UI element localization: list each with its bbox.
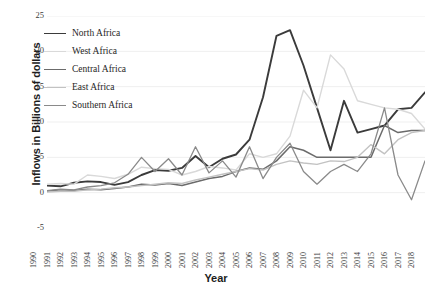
x-tick-label: 1999 — [152, 228, 160, 268]
x-axis-title: Year — [0, 272, 432, 284]
x-tick-label: 1996 — [111, 228, 119, 268]
x-tick-label: 2003 — [206, 228, 214, 268]
chart-figure: Inflows in Billions of dollars 252015105… — [0, 0, 432, 296]
legend-label: Central Africa — [72, 64, 126, 74]
x-tick-label: 2004 — [219, 228, 227, 268]
y-tick-label: 10 — [22, 117, 44, 126]
legend-item-central-africa[interactable]: Central Africa — [44, 60, 176, 78]
legend-item-north-africa[interactable]: North Africa — [44, 24, 176, 42]
x-tick-label: 1995 — [98, 228, 106, 268]
x-tick-label: 2014 — [354, 228, 362, 268]
legend-swatch-line-icon — [44, 87, 66, 88]
x-axis-tick-labels: 1990199119921993199419951996199719981999… — [47, 230, 425, 270]
x-tick-label: 2010 — [300, 228, 308, 268]
y-tick-label: 25 — [22, 11, 44, 20]
chart-legend: North AfricaWest AfricaCentral AfricaEas… — [44, 24, 176, 114]
x-tick-label: 2007 — [260, 228, 268, 268]
x-tick-label: 2006 — [246, 228, 254, 268]
x-tick-label: 1998 — [138, 228, 146, 268]
y-tick-label: 20 — [22, 46, 44, 55]
x-tick-label: 2016 — [381, 228, 389, 268]
x-tick-label: 1997 — [125, 228, 133, 268]
x-tick-label: 2000 — [165, 228, 173, 268]
legend-swatch-line-icon — [44, 33, 66, 34]
x-tick-label: 2009 — [287, 228, 295, 268]
x-tick-label: 2018 — [408, 228, 416, 268]
legend-label: West Africa — [72, 46, 117, 56]
x-tick-label: 2005 — [233, 228, 241, 268]
x-tick-label: 2012 — [327, 228, 335, 268]
x-tick-label: 2011 — [314, 228, 322, 268]
legend-label: East Africa — [72, 82, 114, 92]
x-tick-label: 2001 — [179, 228, 187, 268]
x-tick-label: 2002 — [192, 228, 200, 268]
legend-swatch-line-icon — [44, 51, 66, 52]
legend-swatch-line-icon — [44, 105, 66, 106]
x-tick-label: 2017 — [395, 228, 403, 268]
x-tick-label: 1993 — [71, 228, 79, 268]
y-tick-label: 15 — [22, 82, 44, 91]
legend-label: North Africa — [72, 28, 120, 38]
legend-item-west-africa[interactable]: West Africa — [44, 42, 176, 60]
x-tick-label: 1990 — [30, 228, 38, 268]
x-tick-label: 2008 — [273, 228, 281, 268]
legend-item-southern-africa[interactable]: Southern Africa — [44, 96, 176, 114]
legend-label: Southern Africa — [72, 100, 132, 110]
legend-item-east-africa[interactable]: East Africa — [44, 78, 176, 96]
x-tick-label: 1992 — [57, 228, 65, 268]
x-tick-label: 2013 — [341, 228, 349, 268]
x-tick-label: 2015 — [368, 228, 376, 268]
y-tick-label: 5 — [22, 152, 44, 161]
y-tick-label: 0 — [22, 188, 44, 197]
x-tick-label: 1991 — [44, 228, 52, 268]
x-tick-label: 1994 — [84, 228, 92, 268]
legend-swatch-line-icon — [44, 69, 66, 70]
